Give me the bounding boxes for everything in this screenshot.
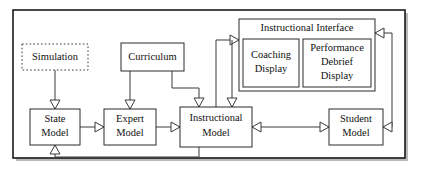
node-student-model[interactable]: Student Model <box>329 109 383 145</box>
instructional-model-label-line1: Instructional <box>189 112 242 123</box>
student-model-label-line1: Student <box>340 113 372 124</box>
expert-model-label-line1: Expert <box>116 113 144 124</box>
panel-instructional-interface[interactable]: Instructional Interface Coaching Display… <box>239 19 375 91</box>
performance-debrief-label-line2: Debrief <box>321 56 354 67</box>
diagram-page: Simulation Curriculum State Model Expert… <box>0 0 424 177</box>
node-state-model[interactable]: State Model <box>30 109 80 145</box>
curriculum-label: Curriculum <box>128 51 176 62</box>
performance-debrief-label-line3: Display <box>321 70 354 81</box>
node-expert-model[interactable]: Expert Model <box>104 109 156 145</box>
node-instructional-model[interactable]: Instructional Model <box>180 107 252 147</box>
node-simulation[interactable]: Simulation <box>22 44 88 70</box>
node-curriculum[interactable]: Curriculum <box>121 43 184 71</box>
node-performance-debrief-display[interactable]: Performance Debrief Display <box>303 39 371 87</box>
coaching-display-label-line1: Coaching <box>251 49 292 60</box>
coaching-display-label-line2: Display <box>255 63 288 74</box>
state-model-label-line1: State <box>45 113 66 124</box>
node-coaching-display[interactable]: Coaching Display <box>243 39 299 87</box>
simulation-label: Simulation <box>32 51 79 62</box>
performance-debrief-label-line1: Performance <box>310 42 364 53</box>
state-model-label-line2: Model <box>41 127 68 138</box>
student-model-label-line2: Model <box>342 127 369 138</box>
expert-model-label-line2: Model <box>116 127 143 138</box>
instructional-interface-title: Instructional Interface <box>261 22 354 33</box>
instructional-model-label-line2: Model <box>202 127 229 138</box>
block-diagram: Simulation Curriculum State Model Expert… <box>0 0 424 177</box>
